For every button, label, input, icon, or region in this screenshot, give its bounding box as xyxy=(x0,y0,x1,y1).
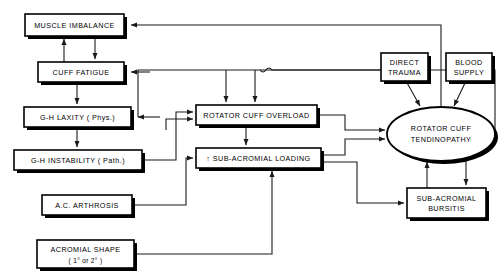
node-label-ac-arthrosis: A.C. ARTHROSIS xyxy=(55,201,119,210)
node-gh-instability[interactable]: G-H INSTABILITY ( Path.) xyxy=(14,150,145,173)
node-label-blood-supply-line2: SUPPLY xyxy=(454,68,485,77)
node-label-blood-supply-line1: BLOOD xyxy=(455,58,482,67)
node-label-acromial-shape: ACROMIAL SHAPE xyxy=(51,245,121,254)
node-sub-acromial-bursitis[interactable]: SUB-ACROMIAL BURSITIS xyxy=(407,188,489,221)
node-cuff-fatigue[interactable]: CUFF FATIGUE xyxy=(38,62,127,85)
node-label-gh-instability: G-H INSTABILITY ( Path.) xyxy=(31,156,125,165)
node-label-tendinopathy-line2: TENDINOPATHY xyxy=(411,135,472,144)
edge-overload-to-tendinopathy xyxy=(317,115,385,130)
node-rotator-cuff-overload[interactable]: ROTATOR CUFF OVERLOAD xyxy=(196,105,320,128)
flowchart-canvas: MUSCLE IMBALANCE CUFF FATIGUE G-H LAXITY… xyxy=(0,0,501,280)
node-label-tendinopathy-line1: ROTATOR CUFF xyxy=(411,124,472,133)
node-label-bursitis-line2: BURSITIS xyxy=(428,204,465,213)
flowchart-diagram: MUSCLE IMBALANCE CUFF FATIGUE G-H LAXITY… xyxy=(0,0,501,280)
node-label-direct-trauma-line2: TRAUMA xyxy=(388,68,421,77)
node-sub-acromial-loading[interactable]: ↑ SUB-ACROMIAL LOADING xyxy=(196,148,324,171)
node-rotator-cuff-tendinopathy[interactable]: ROTATOR CUFF TENDINOPATHY xyxy=(387,107,498,164)
edge-loading-to-tendinopathy xyxy=(321,139,385,155)
node-label-direct-trauma-line1: DIRECT xyxy=(390,58,420,67)
node-label-rotator-cuff-overload: ROTATOR CUFF OVERLOAD xyxy=(203,111,310,120)
edge-acromial-shape-to-loading xyxy=(134,171,272,254)
node-acromial-shape[interactable]: ACROMIAL SHAPE ( 1° or 2° ) xyxy=(37,240,137,271)
edge-overload-left-inflow xyxy=(166,119,193,130)
node-label-cuff-fatigue: CUFF FATIGUE xyxy=(53,68,110,77)
node-label-bursitis-line1: SUB-ACROMIAL xyxy=(416,194,476,203)
node-gh-laxity[interactable]: G-H LAXITY ( Phys.) xyxy=(24,107,134,130)
edge-loading-to-bursitis xyxy=(321,162,404,203)
node-sublabel-acromial-shape: ( 1° or 2° ) xyxy=(69,257,103,265)
node-label-gh-laxity: G-H LAXITY ( Phys.) xyxy=(40,113,115,122)
node-blood-supply[interactable]: BLOOD SUPPLY xyxy=(446,53,495,84)
node-muscle-imbalance[interactable]: MUSCLE IMBALANCE xyxy=(25,14,127,39)
node-direct-trauma[interactable]: DIRECT TRAUMA xyxy=(381,53,431,84)
edge-blood-supply-to-tendinopathy xyxy=(454,81,466,106)
edge-direct-trauma-to-tendinopathy xyxy=(406,81,420,106)
node-label-sub-acromial-loading: ↑ SUB-ACROMIAL LOADING xyxy=(206,154,310,163)
node-ac-arthrosis[interactable]: A.C. ARTHROSIS xyxy=(42,195,135,218)
node-label-muscle-imbalance: MUSCLE IMBALANCE xyxy=(34,21,115,30)
